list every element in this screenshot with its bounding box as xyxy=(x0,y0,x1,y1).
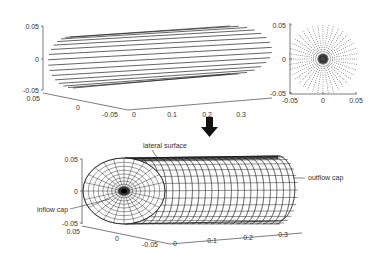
svg-text:0.05: 0.05 xyxy=(349,97,363,104)
svg-text:0: 0 xyxy=(74,188,78,195)
z-tick-label: 0 xyxy=(35,56,39,63)
svg-text:0.2: 0.2 xyxy=(243,234,253,241)
streamline xyxy=(61,28,247,39)
svg-text:0.3: 0.3 xyxy=(278,231,288,238)
z-tick-label: 0.05 xyxy=(25,23,39,30)
center-density xyxy=(318,54,328,64)
inflow-cap-mesh xyxy=(83,158,165,224)
streamline xyxy=(48,53,271,66)
svg-text:0.05: 0.05 xyxy=(64,156,78,163)
bottom-plot: 0.050-0.050.050-0.0500.10.20.3lateral su… xyxy=(37,142,344,248)
svg-text:0.05: 0.05 xyxy=(66,228,80,235)
svg-text:0: 0 xyxy=(282,56,286,63)
svg-text:-0.05: -0.05 xyxy=(270,90,286,97)
annotation-inflow-cap: inflow cap xyxy=(37,206,68,214)
x-tick-label: 0 xyxy=(132,111,136,118)
svg-text:-0.05: -0.05 xyxy=(282,97,298,104)
annotation-outflow-cap: outflow cap xyxy=(308,174,344,182)
streamline xyxy=(48,47,272,59)
x-tick-label: 0.3 xyxy=(236,111,246,118)
down-arrow xyxy=(201,117,218,137)
y-axis xyxy=(43,93,128,110)
figure-canvas: 0.050-0.050.050-0.0500.10.20.30.050-0.05… xyxy=(0,0,382,264)
x-axis xyxy=(128,98,272,110)
top-left-plot: 0.050-0.050.050-0.0500.10.20.3 xyxy=(23,23,272,119)
x-tick-label: 0.1 xyxy=(167,111,177,118)
svg-text:0.1: 0.1 xyxy=(207,237,217,244)
streamline xyxy=(49,42,270,54)
svg-text:0: 0 xyxy=(115,235,119,242)
svg-text:0: 0 xyxy=(321,97,325,104)
svg-text:-0.05: -0.05 xyxy=(102,111,118,118)
streamline xyxy=(59,70,255,83)
svg-text:0.05: 0.05 xyxy=(272,22,286,29)
svg-text:-0.05: -0.05 xyxy=(62,220,78,227)
svg-text:0: 0 xyxy=(76,104,80,111)
svg-text:0: 0 xyxy=(173,240,177,247)
top-right-plot: 0.050-0.05-0.0500.05 xyxy=(270,22,363,105)
svg-text:0.05: 0.05 xyxy=(26,95,40,102)
streamline xyxy=(63,72,247,86)
annotation-lateral-surface: lateral surface xyxy=(143,142,187,149)
z-tick-label: -0.05 xyxy=(23,87,39,94)
svg-text:-0.05: -0.05 xyxy=(142,241,158,248)
x-tick-label: 0.2 xyxy=(202,111,212,118)
